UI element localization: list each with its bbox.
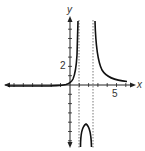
x-tick-label-5: 5	[112, 89, 118, 99]
x-axis-label: x	[137, 80, 142, 90]
function-graph	[0, 0, 145, 151]
y-tick-label-2: 2	[60, 61, 66, 71]
y-axis-arrow-down-icon	[68, 142, 73, 148]
curve-middle-branch	[81, 124, 92, 147]
y-axis-arrow-up-icon	[68, 16, 73, 22]
curve-right-branch	[95, 21, 127, 82]
x-axis-arrow-right-icon	[130, 83, 136, 88]
curve-left-branch	[8, 21, 78, 86]
y-axis-label: y	[67, 5, 72, 15]
